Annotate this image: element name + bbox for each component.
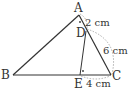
label-c: C: [112, 69, 121, 83]
measure-ad: 2 cm: [85, 17, 110, 28]
label-a: A: [73, 1, 83, 15]
segment-ab: [13, 15, 79, 75]
measure-dc: 6 cm: [103, 45, 128, 56]
label-d: D: [76, 26, 86, 40]
label-b: B: [1, 68, 10, 82]
triangle-diagram: A B C D E 2 cm 6 cm 4 cm: [0, 0, 137, 100]
measure-ec: 4 cm: [86, 78, 111, 89]
angle-mark-a: [79, 21, 81, 23]
angle-mark-e: [82, 70, 84, 72]
label-e: E: [74, 77, 83, 91]
